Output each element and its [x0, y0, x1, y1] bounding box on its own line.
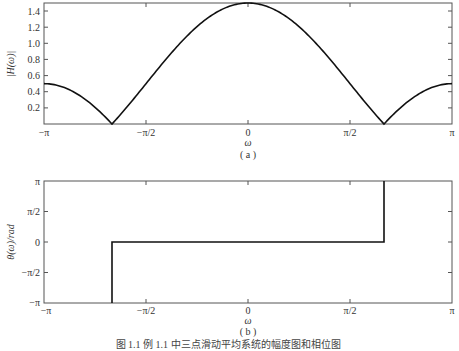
y-tick-label: −π: [29, 297, 40, 308]
x-tick-label: −π/2: [137, 127, 155, 138]
x-tick-label: −π: [39, 127, 50, 138]
y-tick-labels: 1.4 1.2 1.0 0.8 0.6 0.4 0.2: [28, 6, 41, 114]
figure: 1.4 1.2 1.0 0.8 0.6 0.4 0.2 −π −π/2 0 π/…: [0, 0, 459, 351]
x-axis-title: ω: [244, 315, 251, 326]
x-tick-label: π: [449, 305, 454, 316]
y-tick-labels: π π/2 0 −π/2 −π: [22, 176, 40, 308]
y-tick-label: π/2: [27, 206, 40, 217]
plot-frame: [44, 3, 452, 124]
y-tick-label: −π/2: [22, 267, 40, 278]
magnitude-curve: [44, 3, 452, 124]
y-tick-label: 1.4: [28, 6, 41, 17]
y-tick-label: π: [35, 176, 40, 187]
x-tick-label: π/2: [344, 305, 357, 316]
y-tick-label: 1.0: [28, 38, 41, 49]
y-tick-label: 0.2: [28, 102, 41, 113]
x-tick-label: −π/2: [137, 305, 155, 316]
x-tick-label: π: [449, 127, 454, 138]
y-tick-label: 0.8: [28, 54, 41, 65]
y-ticks: [44, 3, 452, 124]
x-tick-label: −π: [41, 305, 52, 316]
panel-a-magnitude-plot: 1.4 1.2 1.0 0.8 0.6 0.4 0.2 −π −π/2 0 π/…: [5, 3, 455, 161]
y-axis-title: θ(ω)/rad: [5, 223, 17, 259]
panel-sublabel: ( b ): [240, 326, 257, 338]
y-tick-label: 0.6: [28, 70, 41, 81]
y-tick-label: 0.4: [28, 86, 41, 97]
panel-sublabel: ( a ): [240, 149, 256, 161]
y-tick-label: 0: [35, 237, 40, 248]
panel-b-phase-plot: π π/2 0 −π/2 −π −π −π/2 0 π/2 π ω ( b ) …: [5, 176, 455, 338]
x-tick-label: π/2: [344, 127, 357, 138]
phase-curve: [112, 181, 384, 303]
y-tick-label: 1.2: [28, 22, 41, 33]
x-axis-title: ω: [244, 137, 251, 148]
figure-caption: 图 1.1 例 1.1 中三点滑动平均系统的幅度图和相位图: [116, 338, 341, 350]
y-axis-title: |H(ω)|: [5, 51, 17, 77]
